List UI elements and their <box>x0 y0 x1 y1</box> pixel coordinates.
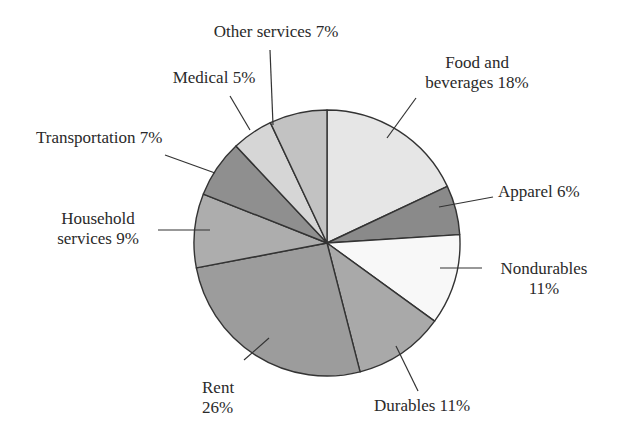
label-durables: Durables 11% <box>374 396 470 416</box>
label-line: Household <box>42 209 154 229</box>
label-line: Rent <box>202 378 234 398</box>
pie-slices <box>194 110 460 376</box>
label-apparel: Apparel 6% <box>498 182 580 202</box>
label-text: Durables 11% <box>374 396 470 415</box>
label-text: Transportation 7% <box>36 128 162 147</box>
label-line: Food and <box>392 53 562 73</box>
label-household-services: Household services 9% <box>42 209 154 249</box>
label-line: 11% <box>484 279 604 299</box>
label-rent: Rent 26% <box>202 378 234 418</box>
leader-other <box>270 50 273 125</box>
label-medical: Medical 5% <box>164 68 264 88</box>
leader-transportation <box>165 155 215 173</box>
label-transportation: Transportation 7% <box>36 128 162 148</box>
label-line: 26% <box>202 398 234 418</box>
label-text: Medical 5% <box>173 68 256 87</box>
label-food-beverages: Food and beverages 18% <box>392 53 562 93</box>
label-line: Nondurables <box>484 259 604 279</box>
label-nondurables: Nondurables 11% <box>484 259 604 299</box>
label-text: Apparel 6% <box>498 182 580 201</box>
leader-medical <box>230 96 250 130</box>
leader-durables <box>396 346 418 391</box>
label-other-services: Other services 7% <box>206 22 346 42</box>
label-text: Other services 7% <box>214 22 339 41</box>
label-line: services 9% <box>42 229 154 249</box>
label-line: beverages 18% <box>392 73 562 93</box>
